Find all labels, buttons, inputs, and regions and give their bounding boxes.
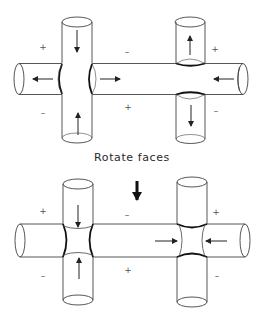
minus-sign: – [211, 271, 223, 281]
bottom-diagram [15, 177, 250, 307]
minus-sign: – [37, 108, 49, 118]
minus-sign: – [210, 106, 222, 116]
top-diagram [14, 17, 248, 144]
plus-sign: + [122, 265, 134, 275]
minus-sign: – [37, 271, 49, 281]
top-right-vertical-cylinder [175, 17, 205, 144]
minus-sign: – [121, 47, 133, 57]
plus-sign: + [37, 42, 49, 52]
plus-sign: + [37, 206, 49, 216]
plus-sign: + [209, 44, 221, 54]
plus-sign: + [122, 102, 134, 112]
minus-sign: – [121, 210, 133, 220]
plus-sign: + [210, 207, 222, 217]
bottom-right-vertical-cylinder [177, 177, 207, 307]
bottom-left-vertical-cylinder [63, 179, 93, 305]
rotate-faces-caption: Rotate faces [0, 151, 264, 164]
bottom-force-arrows [78, 205, 227, 279]
top-force-arrows [33, 30, 234, 135]
